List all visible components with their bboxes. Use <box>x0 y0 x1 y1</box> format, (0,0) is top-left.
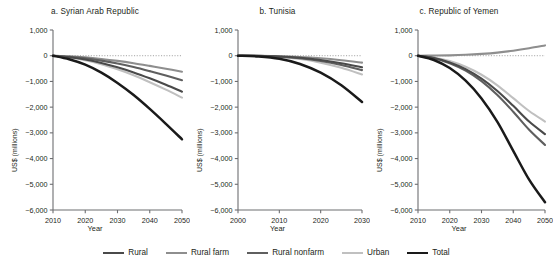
y-tick-label: −5,000 <box>25 180 47 189</box>
y-tick-label: 1,000 <box>395 26 413 35</box>
panel-b-x-axis-label: Year <box>185 224 370 233</box>
panel-c-plot: 1,0000−1,000−2,000−3,000−4,000−5,000−6,0… <box>365 0 553 238</box>
panel-a-y-axis-label: US$ (millions) <box>11 128 18 172</box>
legend-label: Total <box>432 249 449 257</box>
y-tick-label: −6,000 <box>390 206 412 215</box>
panel-a-x-axis-label: Year <box>0 224 190 233</box>
y-tick-label: −3,000 <box>25 128 47 137</box>
y-tick-label: −3,000 <box>210 128 232 137</box>
series-line-urban <box>53 56 182 98</box>
panel-b-y-axis-label: US$ (millions) <box>196 128 203 172</box>
y-tick-label: −3,000 <box>390 128 412 137</box>
y-tick-label: −5,000 <box>210 180 232 189</box>
y-tick-label: −4,000 <box>25 154 47 163</box>
legend-swatch-icon <box>342 252 363 255</box>
y-tick-label: −1,000 <box>25 77 47 86</box>
legend-swatch-icon <box>166 252 187 255</box>
y-tick-label: 1,000 <box>30 26 48 35</box>
y-tick-label: −2,000 <box>210 103 232 112</box>
legend-label: Urban <box>367 249 389 257</box>
legend-swatch-icon <box>247 252 268 255</box>
legend-item-rural-farm: Rural farm <box>166 249 229 257</box>
legend-item-rural-nonfarm: Rural nonfarm <box>247 249 324 257</box>
legend-item-urban: Urban <box>342 249 389 257</box>
legend-swatch-icon <box>407 252 428 255</box>
figure-multi-panel-line-chart: a. Syrian Arab Republic 1,0000−1,000−2,0… <box>0 0 553 270</box>
legend-label: Rural <box>128 249 148 257</box>
legend-item-rural: Rural <box>103 249 148 257</box>
y-tick-label: 0 <box>409 51 413 60</box>
y-tick-label: −2,000 <box>390 103 412 112</box>
y-tick-label: −5,000 <box>390 180 412 189</box>
y-tick-label: −1,000 <box>210 77 232 86</box>
y-tick-label: 0 <box>44 51 48 60</box>
legend-label: Rural nonfarm <box>272 249 324 257</box>
legend-label: Rural farm <box>191 249 229 257</box>
y-tick-label: −4,000 <box>390 154 412 163</box>
y-tick-label: −1,000 <box>390 77 412 86</box>
panel-c: c. Republic of Yemen 1,0000−1,000−2,000−… <box>365 0 553 238</box>
y-tick-label: 1,000 <box>215 26 233 35</box>
series-line-rural-farm <box>418 45 545 55</box>
legend-swatch-icon <box>103 252 124 255</box>
series-line-urban <box>418 56 545 122</box>
panel-c-x-axis-label: Year <box>365 224 553 233</box>
legend-item-total: Total <box>407 249 449 257</box>
y-tick-label: −4,000 <box>210 154 232 163</box>
panel-a: a. Syrian Arab Republic 1,0000−1,000−2,0… <box>0 0 190 238</box>
y-tick-label: −6,000 <box>25 206 47 215</box>
series-line-rural <box>418 56 545 134</box>
chart-legend: RuralRural farmRural nonfarmUrbanTotal <box>0 243 553 263</box>
y-tick-label: −6,000 <box>210 206 232 215</box>
panel-c-y-axis-label: US$ (millions) <box>376 128 383 172</box>
y-tick-label: −2,000 <box>25 103 47 112</box>
panel-b-plot: 1,0000−1,000−2,000−3,000−4,000−5,000−6,0… <box>185 0 370 238</box>
y-tick-label: 0 <box>229 51 233 60</box>
panel-b: b. Tunisia 1,0000−1,000−2,000−3,000−4,00… <box>185 0 370 238</box>
panel-a-plot: 1,0000−1,000−2,000−3,000−4,000−5,000−6,0… <box>0 0 190 238</box>
